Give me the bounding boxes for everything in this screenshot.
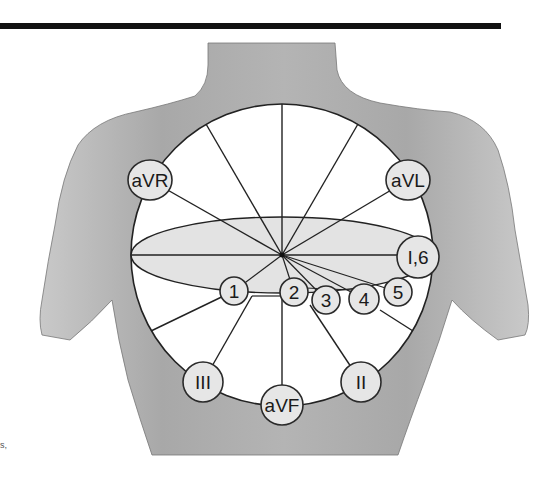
lead-V3: 3 <box>312 286 340 314</box>
svg-text:aVF: aVF <box>265 395 300 416</box>
lead-V4: 4 <box>349 284 379 314</box>
svg-text:1: 1 <box>229 281 240 302</box>
lead-III: III <box>183 362 223 402</box>
svg-text:aVR: aVR <box>132 170 169 191</box>
lead-I-6: I,6 <box>397 236 439 278</box>
svg-text:aVL: aVL <box>391 170 425 191</box>
svg-text:3: 3 <box>321 290 332 311</box>
svg-text:4: 4 <box>359 289 370 310</box>
svg-text:2: 2 <box>289 282 300 303</box>
lead-V5: 5 <box>384 278 412 306</box>
lead-II: II <box>341 362 381 402</box>
svg-text:II: II <box>356 372 367 393</box>
svg-text:I,6: I,6 <box>407 247 428 268</box>
lead-aVR: aVR <box>128 160 172 200</box>
margin-text: s, <box>0 440 7 450</box>
top-rule <box>0 23 501 29</box>
lead-V2: 2 <box>280 278 308 306</box>
lead-aVL: aVL <box>386 160 430 200</box>
lead-V1: 1 <box>220 277 248 305</box>
svg-text:5: 5 <box>393 282 404 303</box>
lead-aVF: aVF <box>261 385 303 425</box>
ecg-lead-diagram: aVR aVL I,6 III aVF II 1 2 3 4 5 s, <box>0 0 558 477</box>
svg-text:III: III <box>195 372 211 393</box>
